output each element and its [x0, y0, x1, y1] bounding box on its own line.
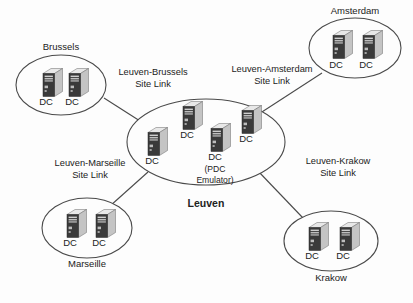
server-icon[interactable] [148, 128, 168, 156]
dc-label: DC [145, 155, 159, 166]
dc-label: DC [336, 250, 350, 261]
server-icon[interactable] [333, 31, 353, 59]
server-icon[interactable] [67, 210, 87, 238]
site-name-amsterdam: Amsterdam [331, 5, 380, 16]
site-link-line-leuven-krakow [258, 171, 303, 218]
server-icon[interactable] [69, 69, 89, 97]
site-name-marseille: Marseille [68, 258, 106, 269]
site-leuven[interactable]: DCDCDCDC(PDCEmulator)Leuven [127, 99, 285, 209]
diagram-canvas: Leuven-BrusselsSite LinkLeuven-Amsterdam… [0, 0, 413, 303]
dc-label: DC [65, 96, 79, 107]
dc-label: DC [180, 129, 194, 140]
dc-label: DC [239, 133, 253, 144]
site-boundary-marseille [42, 198, 132, 258]
dc-label: DC [208, 151, 222, 162]
server-icon[interactable] [96, 210, 116, 238]
dc-label: DC [92, 237, 106, 248]
dc-label: DC [39, 96, 53, 107]
site-link-label-leuven-brussels: Leuven-BrusselsSite Link [118, 67, 188, 89]
site-boundary-krakow [284, 211, 378, 271]
site-name-leuven: Leuven [188, 197, 225, 209]
server-icon[interactable] [309, 223, 329, 251]
dc-label: DC [329, 59, 343, 70]
site-link-line-leuven-marseille [110, 172, 148, 206]
site-name-krakow: Krakow [315, 272, 347, 283]
site-link-leuven-marseille[interactable]: Leuven-MarseilleSite Link [55, 158, 148, 206]
server-icon[interactable] [43, 69, 63, 97]
sites-layer: DCDCBrusselsDCDCAmsterdamDCDCMarseilleDC… [16, 5, 401, 283]
dc-label: DC [305, 250, 319, 261]
server-icon[interactable] [211, 124, 231, 152]
site-marseille[interactable]: DCDCMarseille [42, 198, 132, 269]
site-amsterdam[interactable]: DCDCAmsterdam [309, 5, 401, 78]
site-link-label-leuven-marseille: Leuven-MarseilleSite Link [55, 158, 126, 180]
site-link-label-leuven-krakow: Leuven-KrakowSite Link [306, 156, 371, 178]
site-link-line-leuven-brussels [104, 98, 140, 121]
dc-label: DC [63, 237, 77, 248]
server-icon[interactable] [340, 223, 360, 251]
dc-label: DC [359, 59, 373, 70]
site-krakow[interactable]: DCDCKrakow [284, 211, 378, 283]
site-brussels[interactable]: DCDCBrussels [16, 41, 106, 115]
site-name-brussels: Brussels [43, 41, 80, 52]
site-topology-diagram: Leuven-BrusselsSite LinkLeuven-Amsterdam… [0, 0, 413, 303]
server-icon[interactable] [183, 102, 203, 130]
site-boundary-amsterdam [309, 18, 401, 78]
server-icon[interactable] [363, 31, 383, 59]
site-link-leuven-krakow[interactable]: Leuven-KrakowSite Link [258, 156, 371, 218]
server-icon[interactable] [242, 106, 262, 134]
site-link-label-leuven-amsterdam: Leuven-AmsterdamSite Link [231, 64, 312, 86]
